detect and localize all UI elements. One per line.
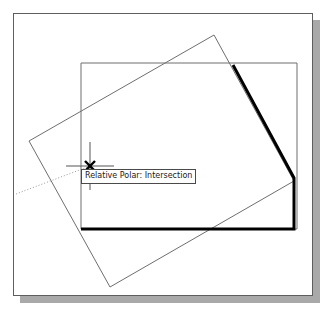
highlighted-polyline[interactable]: [81, 65, 294, 229]
drawing-canvas-frame[interactable]: Relative Polar: Intersection: [13, 13, 313, 296]
polar-tracking-dotted-line: [16, 166, 90, 194]
rotated-rectangle[interactable]: [29, 35, 294, 287]
osnap-tooltip-label: Relative Polar: Intersection: [85, 171, 192, 180]
axis-aligned-rectangle[interactable]: [81, 63, 297, 229]
screenshot-root: Relative Polar: Intersection: [0, 0, 326, 311]
cad-drawing-svg: [14, 14, 312, 295]
osnap-tooltip: Relative Polar: Intersection: [81, 169, 196, 184]
